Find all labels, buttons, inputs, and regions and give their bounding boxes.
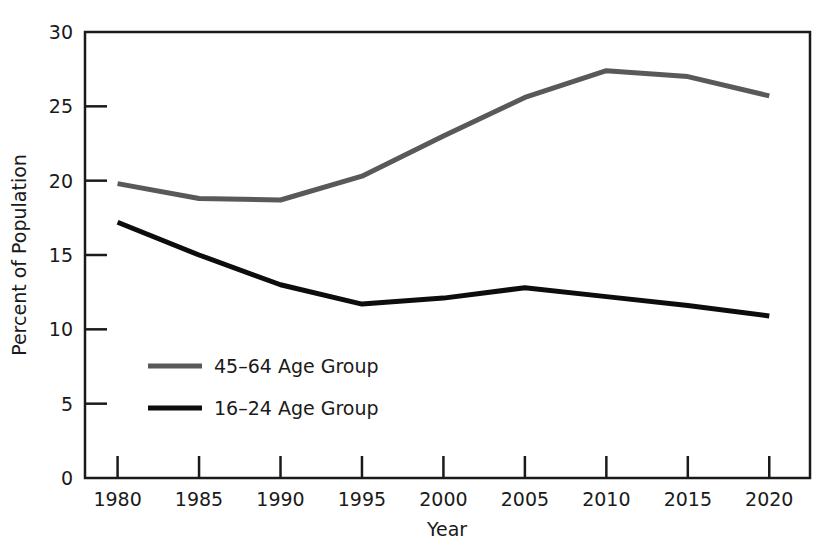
y-tick-label: 20 bbox=[49, 170, 73, 192]
x-tick-label: 1995 bbox=[338, 488, 386, 510]
y-axis-title: Percent of Population bbox=[8, 154, 30, 356]
y-tick-label: 5 bbox=[61, 393, 73, 415]
x-tick-label: 2015 bbox=[664, 488, 712, 510]
line-chart: 051015202530 198019851990199520002005201… bbox=[0, 0, 835, 555]
legend-label: 16–24 Age Group bbox=[214, 397, 379, 419]
legend-label: 45–64 Age Group bbox=[214, 355, 379, 377]
x-tick-label: 1980 bbox=[93, 488, 141, 510]
y-axis-tick-labels: 051015202530 bbox=[49, 21, 73, 489]
y-tick-label: 0 bbox=[61, 467, 73, 489]
x-tick-label: 2000 bbox=[419, 488, 467, 510]
y-tick-label: 10 bbox=[49, 318, 73, 340]
x-axis-tick-labels: 198019851990199520002005201020152020 bbox=[93, 488, 793, 510]
y-tick-label: 15 bbox=[49, 244, 73, 266]
x-tick-label: 1985 bbox=[175, 488, 223, 510]
x-axis-title: Year bbox=[426, 518, 467, 540]
x-tick-label: 2005 bbox=[501, 488, 549, 510]
x-tick-label: 2020 bbox=[745, 488, 793, 510]
x-tick-label: 1990 bbox=[256, 488, 304, 510]
chart-figure: 051015202530 198019851990199520002005201… bbox=[0, 0, 835, 555]
y-tick-label: 25 bbox=[49, 95, 73, 117]
y-tick-label: 30 bbox=[49, 21, 73, 43]
x-tick-label: 2010 bbox=[582, 488, 630, 510]
